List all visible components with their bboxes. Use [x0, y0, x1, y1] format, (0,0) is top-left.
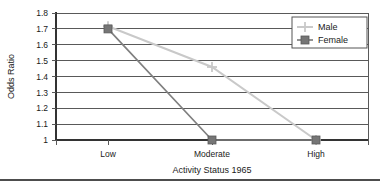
x-tick-label-low: Low: [100, 149, 116, 159]
y-tick-label: 1.2: [36, 103, 48, 113]
y-tick-label: 1.3: [36, 88, 48, 98]
y-tick-label: 1.5: [36, 56, 48, 66]
legend-item-female[interactable]: Female: [297, 35, 348, 45]
legend-male-label: Male: [318, 22, 338, 32]
y-tick-label: 1.1: [36, 119, 48, 129]
y-axis-title: Odds Ratio: [6, 54, 16, 99]
x-tick-label-high: High: [307, 149, 325, 159]
y-axis-tickmarks: [52, 13, 56, 140]
legend[interactable]: Male Female: [292, 17, 367, 48]
legend-female-square-icon: [301, 36, 309, 44]
y-tick-label: 1.7: [36, 24, 48, 34]
chart-figure: 1.8 1.7 1.6 1.5 1.4 1.3 1.2 1.1 1: [0, 0, 380, 186]
y-axis-tick-labels: 1.8 1.7 1.6 1.5 1.4 1.3 1.2 1.1 1: [36, 8, 48, 145]
y-tick-label: 1.4: [36, 72, 48, 82]
y-tick-label: 1.6: [36, 40, 48, 50]
x-axis-title: Activity Status 1965: [172, 165, 251, 175]
x-axis-tick-labels: Low Moderate High: [100, 149, 325, 159]
y-tick-label: 1.8: [36, 8, 48, 18]
series-female-marker-high: [312, 136, 320, 144]
series-female-marker-moderate: [208, 136, 216, 144]
y-tick-label: 1: [43, 135, 48, 145]
x-tick-label-moderate: Moderate: [194, 149, 230, 159]
odds-ratio-line-chart: 1.8 1.7 1.6 1.5 1.4 1.3 1.2 1.1 1: [0, 0, 380, 186]
legend-female-label: Female: [318, 35, 348, 45]
series-female-marker-low: [104, 25, 112, 33]
